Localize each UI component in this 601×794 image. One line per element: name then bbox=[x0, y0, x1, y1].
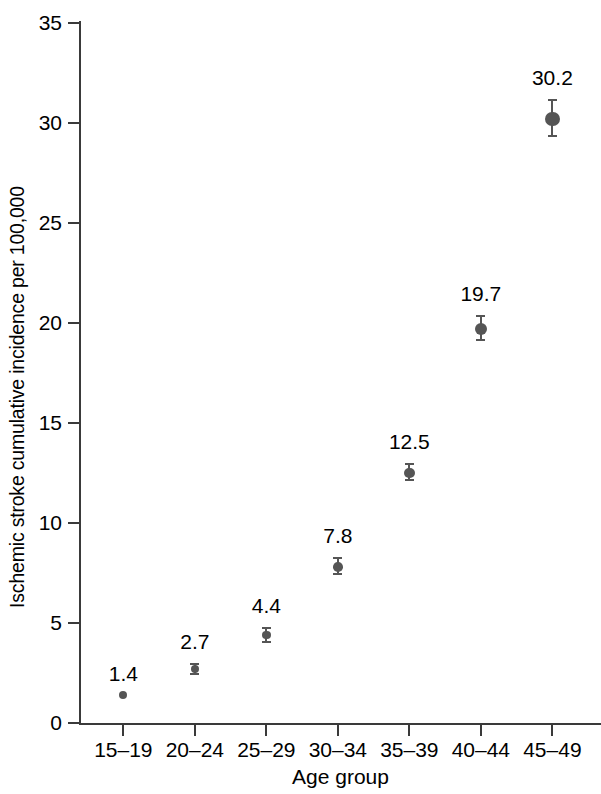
x-tick-mark bbox=[122, 725, 124, 736]
data-point-marker bbox=[545, 112, 559, 126]
y-tick-label-wrap: 20 bbox=[0, 312, 62, 313]
y-tick-label: 15 bbox=[0, 412, 62, 433]
x-tick-mark bbox=[194, 725, 196, 736]
x-axis-line bbox=[79, 723, 601, 725]
data-point-marker bbox=[475, 323, 487, 335]
y-tick-mark bbox=[68, 422, 79, 424]
y-tick-label-wrap: 35 bbox=[0, 12, 62, 13]
y-tick-mark bbox=[68, 222, 79, 224]
y-tick-label-wrap: 25 bbox=[0, 212, 62, 213]
error-bar-cap-lower bbox=[190, 673, 199, 675]
y-tick-label: 35 bbox=[0, 12, 62, 33]
data-point-marker bbox=[333, 562, 343, 572]
y-tick-label: 0 bbox=[0, 712, 62, 733]
data-point-marker bbox=[404, 468, 415, 479]
y-axis-line bbox=[79, 21, 81, 725]
y-tick-mark bbox=[68, 322, 79, 324]
error-bar-cap-lower bbox=[262, 641, 271, 643]
y-tick-label-wrap: 10 bbox=[0, 512, 62, 513]
y-tick-label: 20 bbox=[0, 312, 62, 333]
data-point-marker bbox=[119, 691, 127, 699]
y-tick-label-wrap: 15 bbox=[0, 412, 62, 413]
data-point-label: 7.8 bbox=[288, 525, 388, 546]
data-point-label: 19.7 bbox=[431, 283, 531, 304]
error-bar-cap-lower bbox=[548, 135, 557, 137]
y-tick-label-wrap: 5 bbox=[0, 612, 62, 613]
y-tick-label-wrap: 0 bbox=[0, 712, 62, 713]
x-axis-title-wrap: Age group bbox=[0, 765, 601, 789]
error-bar-cap-upper bbox=[333, 557, 342, 559]
x-axis-title: Age group bbox=[292, 765, 389, 789]
y-tick-label-wrap: 30 bbox=[0, 112, 62, 113]
data-point-label: 4.4 bbox=[216, 595, 316, 616]
y-tick-label: 25 bbox=[0, 212, 62, 233]
x-tick-mark bbox=[480, 725, 482, 736]
error-bar-cap-lower bbox=[476, 339, 485, 341]
x-tick-mark bbox=[551, 725, 553, 736]
error-bar-cap-upper bbox=[262, 627, 271, 629]
x-tick-label: 45–49 bbox=[502, 739, 601, 760]
data-point-label: 1.4 bbox=[73, 663, 173, 684]
error-bar-cap-lower bbox=[405, 479, 414, 481]
x-tick-mark bbox=[408, 725, 410, 736]
error-bar-cap-upper bbox=[476, 315, 485, 317]
y-tick-mark bbox=[68, 22, 79, 24]
y-tick-label: 5 bbox=[0, 612, 62, 633]
y-tick-label: 30 bbox=[0, 112, 62, 133]
error-bar-cap-upper bbox=[548, 99, 557, 101]
y-tick-mark bbox=[68, 622, 79, 624]
error-bar-cap-lower bbox=[333, 573, 342, 575]
x-tick-mark bbox=[265, 725, 267, 736]
y-tick-label: 10 bbox=[0, 512, 62, 533]
y-tick-mark bbox=[68, 122, 79, 124]
error-bar-cap-upper bbox=[405, 463, 414, 465]
x-tick-mark bbox=[337, 725, 339, 736]
data-point-label: 30.2 bbox=[502, 67, 601, 88]
chart-figure: Ischemic stroke cumulative incidence per… bbox=[0, 0, 601, 794]
data-point-marker bbox=[191, 665, 200, 674]
y-tick-mark bbox=[68, 522, 79, 524]
data-point-marker bbox=[262, 631, 271, 640]
data-point-label: 2.7 bbox=[145, 631, 245, 652]
y-tick-mark bbox=[68, 722, 79, 724]
data-point-label: 12.5 bbox=[359, 431, 459, 452]
